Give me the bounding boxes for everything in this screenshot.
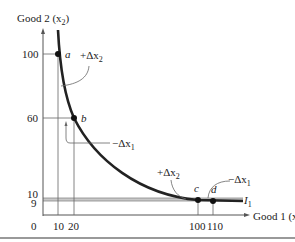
x-tick-110: 110 (207, 220, 224, 232)
point-b-label: b (81, 112, 87, 124)
annotation-plus-dx2-bottom: +Δx2 (157, 166, 180, 181)
point-d (210, 198, 216, 204)
point-a-label: a (65, 48, 71, 60)
annotation-minus-dx1-mid: −Δx1 (112, 137, 135, 152)
point-a (55, 51, 61, 57)
x-tick-10: 10 (53, 220, 65, 232)
curve-label: I1 (243, 194, 252, 209)
x-axis-arrow-icon (244, 213, 250, 217)
y-axis-arrow-icon (41, 28, 45, 34)
x-tick-100: 100 (189, 220, 206, 232)
leader-plus-dx2-top (61, 66, 89, 86)
origin-label: 0 (31, 220, 37, 232)
y-axis-label: Good 2 (x2) (17, 12, 70, 27)
point-c-label: c (194, 182, 199, 194)
x-tick-20: 20 (68, 220, 80, 232)
y-tick-60: 60 (27, 112, 39, 124)
point-d-label: d (211, 183, 217, 195)
annotation-plus-dx2-top: +Δx2 (80, 49, 103, 64)
annotation-minus-dx1-bottom: −Δx1 (228, 173, 251, 188)
y-tick-9: 9 (31, 197, 37, 209)
x-axis-label: Good 1 (x1) (253, 210, 295, 225)
y-tick-100: 100 (22, 48, 39, 60)
point-b (71, 115, 77, 121)
indifference-curve-diagram: Good 2 (x2) 100 60 10 9 0 10 20 100 110 … (0, 0, 295, 242)
point-c (195, 197, 201, 203)
arrowhead-mid-icon (65, 121, 68, 126)
